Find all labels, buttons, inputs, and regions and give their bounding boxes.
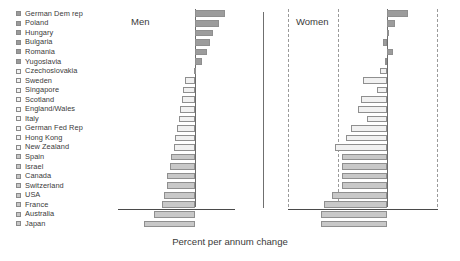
legend-swatch-icon (16, 69, 21, 74)
bar (195, 20, 218, 27)
bar (324, 201, 388, 208)
bar (361, 96, 388, 103)
gridline (338, 9, 339, 207)
bar (332, 192, 388, 199)
legend-item: Poland (16, 19, 116, 29)
legend-swatch-icon (16, 135, 21, 140)
bars-women (288, 9, 438, 207)
bar (385, 58, 387, 65)
legend-swatch-icon (16, 40, 21, 45)
legend-item: Switzerland (16, 181, 116, 191)
bar (167, 173, 195, 180)
legend-item-label: Israel (25, 163, 43, 171)
bar (179, 116, 195, 123)
legend-item: USA (16, 190, 116, 200)
legend-item-label: Japan (25, 220, 45, 228)
legend-item-label: Australia (25, 210, 54, 218)
legend-item: Scotland (16, 95, 116, 105)
bar (387, 10, 408, 17)
bar (342, 182, 388, 189)
legend-item-label: Bulgaria (25, 38, 53, 46)
bar (367, 116, 387, 123)
legend-item: Hungary (16, 28, 116, 38)
legend-item-label: England/Wales (25, 105, 75, 113)
panel-divider (263, 12, 264, 208)
x-axis-men (118, 209, 235, 210)
legend-swatch-icon (16, 154, 21, 159)
bar (358, 106, 388, 113)
bar (351, 125, 388, 132)
legend-item-label: Canada (25, 172, 51, 180)
bar (195, 49, 207, 56)
bar (387, 20, 395, 27)
bar (195, 58, 202, 65)
legend-item: England/Wales (16, 104, 116, 114)
legend-swatch-icon (16, 97, 21, 102)
bar (154, 211, 196, 218)
legend-swatch-icon (16, 212, 21, 217)
zero-line (387, 9, 388, 207)
legend-swatch-icon (16, 221, 21, 226)
legend-item-label: Singapore (25, 86, 59, 94)
legend-item-label: France (25, 201, 48, 209)
plot-panel-men (118, 9, 234, 207)
country-legend: German Dem repPolandHungaryBulgariaRoman… (16, 9, 116, 229)
legend-item-label: German Dem rep (25, 10, 83, 18)
legend-item-label: USA (25, 191, 40, 199)
legend-item: Spain (16, 152, 116, 162)
bar (321, 221, 388, 228)
legend-item-label: German Fed Rep (25, 124, 83, 132)
legend-item-label: Spain (25, 153, 44, 161)
gridline (437, 9, 438, 207)
bar (342, 163, 388, 170)
bar (164, 192, 195, 199)
bar (177, 125, 196, 132)
legend-swatch-icon (16, 164, 21, 169)
legend-swatch-icon (16, 30, 21, 35)
legend-swatch-icon (16, 107, 21, 112)
plot-panel-women (288, 9, 438, 207)
legend-item: Yugoslavia (16, 57, 116, 67)
bar (144, 221, 195, 228)
x-axis-women (288, 209, 438, 210)
bar (380, 68, 387, 75)
legend-item: France (16, 200, 116, 210)
legend-item: Czechoslovakia (16, 66, 116, 76)
bar (342, 154, 388, 161)
bar (387, 49, 393, 56)
bar (363, 77, 388, 84)
legend-swatch-icon (16, 59, 21, 64)
legend-item: New Zealand (16, 143, 116, 153)
legend-item-label: Romania (25, 48, 55, 56)
bar (342, 173, 388, 180)
legend-item-label: Sweden (25, 77, 52, 85)
legend-item: Australia (16, 209, 116, 219)
legend-swatch-icon (16, 49, 21, 54)
bar (346, 135, 388, 142)
legend-item: Romania (16, 47, 116, 57)
legend-item: Bulgaria (16, 38, 116, 48)
legend-swatch-icon (16, 145, 21, 150)
bar (170, 163, 196, 170)
bar (194, 68, 196, 75)
bar (321, 211, 388, 218)
bar (383, 39, 387, 46)
bar (174, 144, 196, 151)
legend-item: Singapore (16, 85, 116, 95)
legend-item-label: Switzerland (25, 182, 64, 190)
legend-item-label: Italy (25, 115, 39, 123)
legend-swatch-icon (16, 193, 21, 198)
legend-item: German Fed Rep (16, 124, 116, 134)
bar (183, 87, 195, 94)
legend-item-label: Poland (25, 19, 48, 27)
legend-item: Canada (16, 171, 116, 181)
legend-swatch-icon (16, 11, 21, 16)
x-axis-label: Percent per annum change (0, 236, 460, 247)
bar (195, 30, 213, 37)
bar (167, 182, 196, 189)
bar (195, 39, 210, 46)
bar (162, 201, 195, 208)
legend-item: Israel (16, 162, 116, 172)
legend-swatch-icon (16, 21, 21, 26)
legend-item-label: Hong Kong (25, 134, 62, 142)
